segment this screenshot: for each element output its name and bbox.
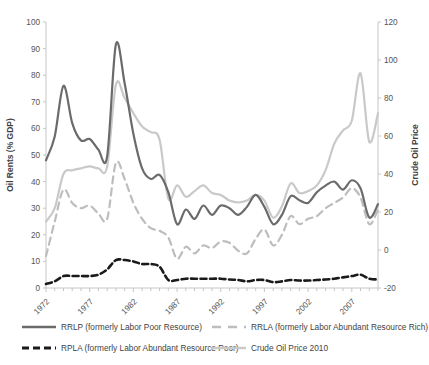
x-axis-tick-label: 1982	[120, 297, 140, 317]
x-axis-tick-label: 1977	[76, 297, 96, 317]
x-axis-tick-label: 2007	[338, 297, 358, 317]
left-axis-tick-label: 100	[26, 18, 40, 27]
left-axis-tick-label: 40	[31, 178, 41, 187]
chart-figure: 0102030405060708090100-20020406080100120…	[0, 0, 429, 365]
right-axis-title: Crude Oil Price	[410, 124, 420, 186]
legend-label-rrla: RRLA (formerly Labor Abundant Resource R…	[251, 322, 428, 332]
legend-row-1: RRLP (formerly Labor Poor Resource) RRLA…	[0, 322, 429, 343]
legend-swatch-crude-oil-price-solid-light-line	[212, 343, 246, 353]
plot-area-container: 0102030405060708090100-20020406080100120…	[0, 0, 429, 320]
left-axis-tick-label: 20	[31, 231, 41, 240]
legend-label-rrlp: RRLP (formerly Labor Poor Resource)	[61, 322, 202, 332]
right-axis-tick-label: 120	[384, 18, 398, 27]
series-line	[46, 161, 378, 258]
left-axis-tick-label: 80	[31, 71, 41, 80]
right-axis-tick-label: 80	[384, 94, 394, 103]
left-axis-tick-label: 0	[35, 284, 40, 293]
legend-swatch-rrlp-solid-dark-line	[22, 322, 56, 332]
series-line	[46, 42, 378, 224]
x-axis-tick-label: 1987	[163, 297, 183, 317]
left-axis-tick-label: 50	[31, 151, 41, 160]
left-axis-tick-label: 60	[31, 124, 41, 133]
right-axis-tick-label: 40	[384, 170, 394, 179]
legend-swatch-rpla-dashed-black-line	[22, 343, 56, 353]
legend-item-rpla: RPLA (formerly Labor Abundant Resource P…	[22, 343, 239, 353]
right-axis-tick-label: 20	[384, 208, 394, 217]
left-axis-tick-label: 70	[31, 98, 41, 107]
legend-item-rrlp: RRLP (formerly Labor Poor Resource)	[22, 322, 202, 332]
legend-row-2: RPLA (formerly Labor Abundant Resource P…	[0, 343, 429, 364]
left-axis-tick-label: 30	[31, 204, 41, 213]
right-axis-tick-label: 0	[384, 246, 389, 255]
legend-swatch-rrla-dashed-light-line	[212, 322, 246, 332]
chart-canvas: 0102030405060708090100-20020406080100120…	[0, 0, 429, 320]
legend-item-crude-oil-price: Crude Oil Price 2010	[212, 343, 328, 353]
left-axis-title: Oil Rents (% GDP)	[5, 118, 15, 192]
x-axis-tick-label: 1992	[207, 297, 227, 317]
series-line	[46, 259, 378, 284]
x-axis-tick-label: 1972	[32, 297, 52, 317]
right-axis-tick-label: 60	[384, 132, 394, 141]
chart-legend: RRLP (formerly Labor Poor Resource) RRLA…	[0, 322, 429, 365]
left-axis-tick-label: 90	[31, 45, 41, 54]
x-axis-tick-label: 1997	[251, 297, 271, 317]
legend-item-rrla: RRLA (formerly Labor Abundant Resource R…	[212, 322, 428, 332]
x-axis-tick-label: 2002	[294, 297, 314, 317]
right-axis-tick-label: 100	[384, 56, 398, 65]
right-axis-tick-label: -20	[384, 284, 396, 293]
left-axis-tick-label: 10	[31, 257, 41, 266]
legend-label-crude-oil-price: Crude Oil Price 2010	[251, 343, 328, 353]
